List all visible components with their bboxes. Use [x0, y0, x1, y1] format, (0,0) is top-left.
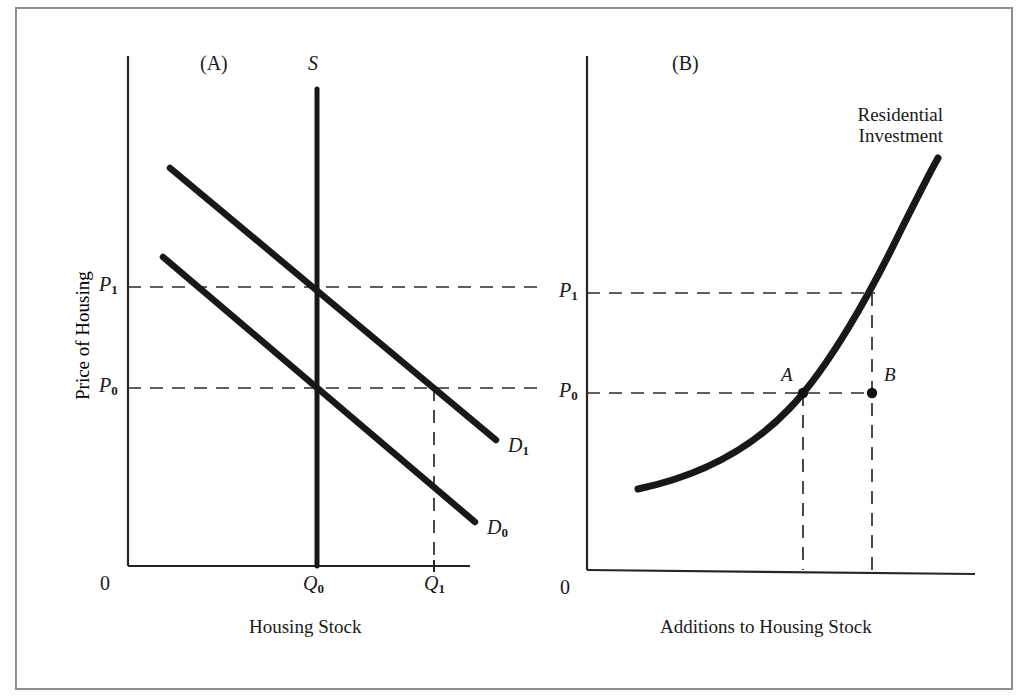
supply-curve-label-s: S — [308, 52, 318, 74]
p1-sub: 1 — [111, 282, 118, 297]
residential-investment-curve — [638, 158, 938, 489]
economics-figure: (A) Price of Housing Housing Stock 0 P1 … — [0, 0, 1030, 700]
panel-a-x-tick-q0: Q0 — [303, 572, 324, 596]
panel-b-x-axis-title: Additions to Housing Stock — [660, 617, 872, 638]
p1-base-b: P — [559, 279, 571, 301]
point-b-label: B — [884, 365, 896, 386]
residential-investment-line2: Investment — [859, 125, 943, 146]
demand-curve-label-d1: D1 — [508, 434, 529, 458]
panel-a-y-tick-p0: P0 — [99, 374, 118, 398]
q0-base: Q — [303, 572, 317, 594]
p0-base-b: P — [559, 379, 571, 401]
panel-b-tag: (B) — [672, 52, 699, 74]
panel-b-y-tick-p0: P0 — [559, 379, 578, 403]
residential-investment-line1: Residential — [858, 104, 943, 125]
panel-b-y-tick-p1: P1 — [559, 279, 578, 303]
panel-b-dashed-guides — [587, 293, 875, 572]
p0-sub: 0 — [111, 383, 118, 398]
panel-a-y-tick-p1: P1 — [99, 273, 118, 297]
p1-sub-b: 1 — [571, 288, 578, 303]
q1-base: Q — [424, 572, 438, 594]
q1-sub: 1 — [438, 581, 445, 596]
point-a-label: A — [781, 365, 793, 386]
panel-a-x-tick-q1: Q1 — [424, 572, 445, 596]
q0-sub: 0 — [317, 581, 324, 596]
d1-sub: 1 — [522, 443, 529, 458]
p0-sub-b: 0 — [571, 388, 578, 403]
d0-sub: 0 — [501, 525, 508, 540]
residential-investment-label: Residential Investment — [828, 105, 943, 147]
panel-b-x-axis — [587, 570, 975, 574]
demand-curve-label-d0: D0 — [487, 516, 508, 540]
panel-a-y-axis-title: Price of Housing — [72, 271, 94, 400]
p1-base: P — [99, 273, 111, 295]
s-base: S — [308, 52, 318, 74]
panel-a-x-axis-title: Housing Stock — [249, 617, 361, 638]
panel-a-tag: (A) — [200, 52, 228, 74]
panel-b-origin-label: 0 — [560, 576, 570, 598]
panel-a-origin-label: 0 — [100, 572, 110, 594]
point-a-marker — [798, 388, 808, 398]
panel-a-axes — [128, 56, 470, 566]
p0-base: P — [99, 374, 111, 396]
d1-base: D — [508, 434, 522, 456]
point-b-marker — [867, 388, 877, 398]
d0-base: D — [487, 516, 501, 538]
